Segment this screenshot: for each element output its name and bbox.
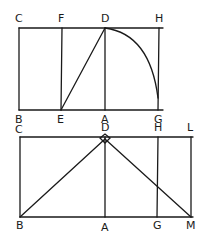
arc-DG [105, 28, 158, 98]
figure-top: C F D H B E A G [15, 12, 163, 126]
label-L: L [187, 121, 194, 134]
label-D: D [101, 12, 109, 25]
label-A: A [101, 221, 109, 234]
label-D: D [101, 121, 109, 134]
label-G: G [153, 219, 162, 232]
line-DM [105, 139, 191, 217]
label-C: C [15, 12, 23, 25]
figure-bottom: C D H L B A G M [15, 121, 196, 234]
label-C: C [15, 123, 23, 136]
label-B: B [16, 219, 24, 232]
line-HG [157, 137, 158, 217]
label-E: E [57, 113, 64, 126]
label-H: H [155, 12, 163, 25]
label-H: H [154, 121, 162, 134]
label-M: M [186, 219, 196, 232]
label-F: F [58, 12, 64, 25]
line-FE [61, 28, 62, 110]
golden-rectangle-diagrams: C F D H B E A G C D H L B A G M [0, 0, 206, 245]
line-BD [20, 139, 105, 217]
line-ED [61, 28, 105, 110]
